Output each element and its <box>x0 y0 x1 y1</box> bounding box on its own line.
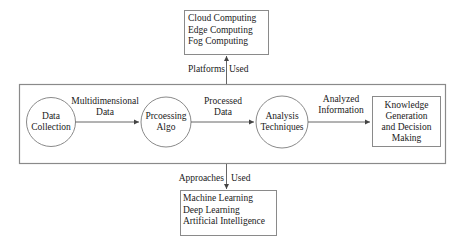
approaches-list: Machine Learning Deep Learning Artificia… <box>183 193 265 228</box>
approach-item: Deep Learning <box>183 205 265 217</box>
knowledge-label: Knowledge Generation and Decision Making <box>372 98 441 145</box>
processing-algo-line: Algo <box>157 122 176 133</box>
platforms-label-left: Platforms <box>182 64 225 75</box>
analyzed-information-label: Analyzed Information <box>310 94 372 116</box>
knowledge-line: Knowledge <box>385 100 429 111</box>
knowledge-line: Making <box>392 133 422 144</box>
analysis-techniques-label: Analysis Techniques <box>256 110 308 134</box>
processed-data-label: Processed Data <box>193 96 253 118</box>
edge-label-line: Processed <box>204 96 242 107</box>
analysis-techniques-line: Techniques <box>260 122 303 133</box>
data-collection-line: Data <box>42 111 60 122</box>
approach-item: Artificial Intelligence <box>183 216 265 228</box>
platform-item: Edge Computing <box>188 25 256 37</box>
analysis-techniques-line: Analysis <box>265 111 298 122</box>
edge-label-line: Data <box>214 107 232 118</box>
multidimensional-data-label: Multidimensional Data <box>66 96 144 118</box>
edge-label-line: Information <box>318 105 363 116</box>
edge-label-line: Analyzed <box>323 94 359 105</box>
edge-label-line: Multidimensional <box>71 96 139 107</box>
edge-label-line: Data <box>96 107 114 118</box>
processing-algo-line: Prcoessing <box>145 111 186 122</box>
platforms-label-right: Used <box>229 64 249 75</box>
approaches-label-left: Approaches <box>168 173 224 184</box>
knowledge-line: Generation <box>385 111 427 122</box>
platform-item: Cloud Computing <box>188 13 256 25</box>
processing-algo-label: Prcoessing Algo <box>141 110 191 134</box>
platforms-list: Cloud Computing Edge Computing Fog Compu… <box>188 13 256 48</box>
knowledge-line: and Decision <box>382 122 432 133</box>
approaches-label-right: Used <box>231 173 251 184</box>
data-collection-line: Collection <box>31 122 71 133</box>
approach-item: Machine Learning <box>183 193 265 205</box>
platform-item: Fog Computing <box>188 36 256 48</box>
